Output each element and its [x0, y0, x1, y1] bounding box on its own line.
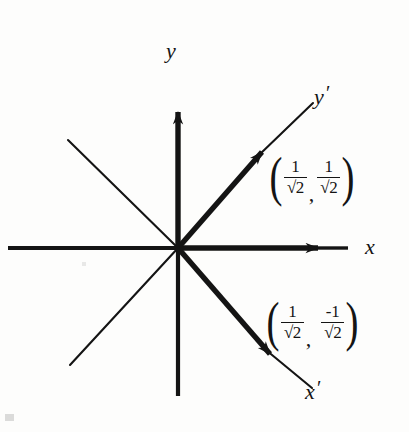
y-axis-label-text: y: [166, 38, 176, 63]
y-prime-negative-extension: [70, 248, 178, 365]
y-prime-unit-vector-label: ( 1 √2 , 1 √2 ): [267, 155, 357, 199]
fraction-second: 1 √2: [316, 158, 341, 197]
fraction-denominator: √2: [321, 322, 344, 342]
fraction-denominator: √2: [284, 177, 307, 197]
y-prime-axis-label: y′: [314, 83, 329, 108]
coordinate-separator: ,: [308, 183, 317, 205]
coordinate-axes-figure: y x y′ x′ ( 1 √2 , 1 √2 ) ( 1 √2 , -1 √2: [0, 0, 409, 432]
fraction-first: 1 √2: [280, 303, 305, 342]
close-paren-icon: ): [342, 155, 355, 199]
open-paren-icon: (: [267, 300, 280, 344]
fraction-numerator: 1: [288, 158, 303, 177]
x-prime-negative-extension: [68, 140, 178, 248]
close-paren-icon: ): [346, 300, 359, 344]
x-axis-label-text: x: [365, 234, 375, 259]
fraction-numerator: -1: [323, 303, 343, 322]
scan-artifact: [82, 262, 86, 266]
y-axis-label: y: [166, 40, 176, 62]
y-prime-positive-extension: [258, 103, 313, 156]
y-prime-mark: ′: [324, 82, 329, 104]
x-prime-axis-label-text: x: [305, 379, 315, 404]
fraction-first: 1 √2: [283, 158, 308, 197]
axes-drawing: [0, 0, 409, 432]
y-prime-axis-label-text: y: [314, 84, 324, 109]
fraction-numerator: 1: [285, 303, 300, 322]
x-axis-label: x: [365, 236, 375, 258]
fraction-numerator: 1: [322, 158, 337, 177]
open-paren-icon: (: [270, 155, 283, 199]
fraction-denominator: √2: [281, 322, 304, 342]
y-prime-axis-positive-half: [178, 152, 262, 248]
fraction-second: -1 √2: [320, 303, 345, 342]
scan-artifact: [5, 414, 14, 421]
coordinate-separator: ,: [305, 328, 321, 350]
x-prime-unit-vector-label: ( 1 √2 , -1 √2 ): [264, 300, 361, 344]
x-prime-mark: ′: [315, 377, 320, 399]
x-prime-axis-label: x′: [305, 378, 320, 403]
fraction-denominator: √2: [317, 177, 340, 197]
x-prime-axis-positive-half: [178, 248, 270, 354]
